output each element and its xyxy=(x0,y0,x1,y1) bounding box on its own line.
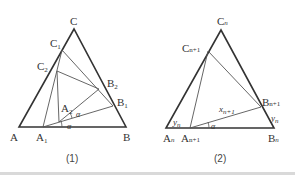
label-an: An xyxy=(163,132,175,144)
label-bn: Bn xyxy=(268,132,279,144)
figure-1: C C1 C2 B2 B1 A2 α α A A1 B (1) xyxy=(10,15,130,164)
angle-arc-1 xyxy=(61,121,62,127)
label-alpha-upper: α xyxy=(76,110,81,119)
label-c: C xyxy=(70,15,77,27)
caption-figure-2: (2) xyxy=(214,153,226,164)
label-cn1: Cn+1 xyxy=(182,42,201,54)
label-a1: A1 xyxy=(36,131,48,145)
label-alpha: α xyxy=(211,122,216,131)
triangle-an1bn1cn1 xyxy=(190,51,261,128)
label-x-n1: xn+1 xyxy=(218,104,235,116)
bottom-divider xyxy=(0,172,295,175)
label-a: A xyxy=(10,131,18,143)
label-a2: A2 xyxy=(61,102,73,116)
label-b2: B2 xyxy=(107,77,118,91)
caption-figure-1: (1) xyxy=(66,153,78,164)
angle-arc xyxy=(208,122,209,128)
label-b1: B1 xyxy=(117,96,128,110)
label-an1: An+1 xyxy=(181,132,200,144)
label-bn1: Bn+1 xyxy=(262,96,281,108)
label-b: B xyxy=(123,131,130,143)
label-c1: C1 xyxy=(50,37,61,51)
label-c2: C2 xyxy=(37,60,48,74)
figure-2: Cn Cn+1 Bn+1 xn+1 yn yn α An An+1 Bn (2) xyxy=(163,15,281,164)
label-cn: Cn xyxy=(217,15,228,27)
diagram-canvas: C C1 C2 B2 B1 A2 α α A A1 B (1) Cn Cn+1 … xyxy=(0,0,295,182)
